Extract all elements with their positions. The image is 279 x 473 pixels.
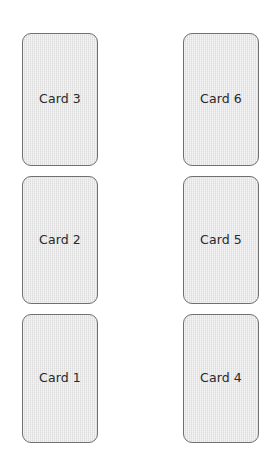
card-board: Card 3 Card 2 Card 1 Card 6 Card 5 Card … (0, 0, 279, 473)
card-label: Card 1 (39, 372, 81, 385)
card-label: Card 4 (200, 372, 242, 385)
card-2[interactable]: Card 2 (22, 176, 98, 303)
card-label: Card 6 (200, 93, 242, 106)
card-1[interactable]: Card 1 (22, 314, 98, 443)
card-6[interactable]: Card 6 (183, 33, 259, 166)
card-label: Card 3 (39, 93, 81, 106)
card-column-right: Card 6 Card 5 Card 4 (183, 33, 259, 443)
card-3[interactable]: Card 3 (22, 33, 98, 166)
card-label: Card 5 (200, 234, 242, 247)
card-4[interactable]: Card 4 (183, 314, 259, 443)
card-label: Card 2 (39, 234, 81, 247)
card-5[interactable]: Card 5 (183, 176, 259, 303)
card-column-left: Card 3 Card 2 Card 1 (22, 33, 98, 443)
